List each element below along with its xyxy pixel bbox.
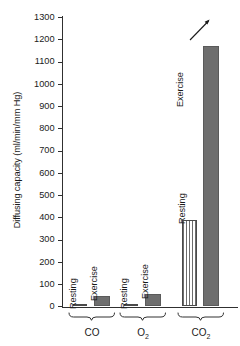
group-label-co-text: CO <box>85 327 100 338</box>
brace-co2 <box>178 313 224 320</box>
y-tick-label-1300: 1300 <box>34 13 54 22</box>
y-tick-label-800: 800 <box>39 124 54 133</box>
bar-co2-exercise[interactable] <box>203 46 219 306</box>
group-label-o2: O2 <box>120 328 166 340</box>
group-label-co2-text: CO <box>192 327 207 338</box>
y-tick-0 <box>58 306 63 307</box>
group-label-co2: CO2 <box>178 328 224 340</box>
y-tick-200 <box>58 262 63 263</box>
group-label-co: CO <box>69 328 115 338</box>
y-axis-line <box>62 16 63 308</box>
bar-label-co-resting: Resting <box>68 278 77 309</box>
annotation-arrow-head <box>205 20 210 25</box>
y-tick-800 <box>58 128 63 129</box>
plot-area: 0 100 200 300 400 500 600 700 800 900 10… <box>0 0 240 346</box>
y-tick-label-700: 700 <box>39 146 54 155</box>
diffusing-capacity-bar-chart: Diffusing capacity (ml/min/mm Hg) 0 100 … <box>0 0 240 346</box>
y-tick-300 <box>58 240 63 241</box>
group-label-o2-subscript: 2 <box>145 333 149 340</box>
y-tick-label-400: 400 <box>39 213 54 222</box>
y-tick-label-100: 100 <box>39 280 54 289</box>
bar-label-co2-resting: Resting <box>177 193 186 224</box>
bar-label-co2-exercise: Exercise <box>176 72 185 107</box>
y-tick-label-1100: 1100 <box>35 57 55 66</box>
x-axis-line <box>62 307 238 308</box>
y-tick-600 <box>58 173 63 174</box>
brace-o2 <box>120 313 166 320</box>
bar-label-o2-resting: Resting <box>119 278 128 309</box>
y-tick-label-500: 500 <box>39 191 54 200</box>
y-tick-400 <box>58 217 63 218</box>
group-label-o2-text: O <box>137 327 145 338</box>
y-tick-1200 <box>58 39 63 40</box>
brace-co <box>69 313 115 320</box>
y-tick-1300 <box>58 17 63 18</box>
y-tick-900 <box>58 106 63 107</box>
bar-co2-resting[interactable] <box>182 220 197 307</box>
bar-label-o2-exercise: Exercise <box>141 264 150 299</box>
y-tick-label-600: 600 <box>39 169 54 178</box>
y-tick-label-1200: 1200 <box>34 35 54 44</box>
bar-label-co-exercise: Exercise <box>90 266 99 301</box>
annotation-arrow-line <box>190 21 209 40</box>
y-tick-label-300: 300 <box>39 235 54 244</box>
y-tick-1000 <box>58 84 63 85</box>
y-tick-700 <box>58 151 63 152</box>
y-tick-100 <box>58 284 63 285</box>
y-tick-label-200: 200 <box>39 258 54 267</box>
y-tick-500 <box>58 195 63 196</box>
y-tick-label-0: 0 <box>49 302 54 311</box>
group-label-co2-subscript: 2 <box>207 333 211 340</box>
y-tick-label-900: 900 <box>39 102 54 111</box>
y-tick-label-1000: 1000 <box>34 80 54 89</box>
y-tick-1100 <box>58 62 63 63</box>
